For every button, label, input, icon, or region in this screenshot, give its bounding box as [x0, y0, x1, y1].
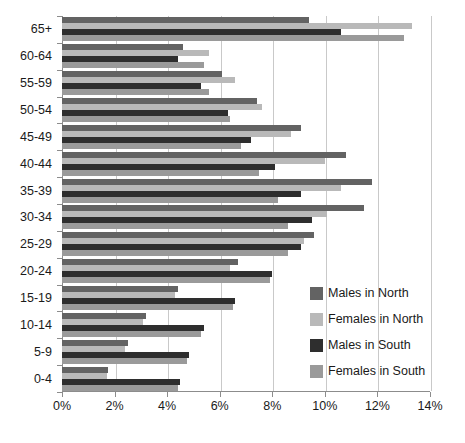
y-axis: 65+60-6455-5950-5445-4940-4435-3930-3425…: [0, 16, 57, 392]
y-tick: [57, 123, 62, 124]
x-tick-label: 6%: [198, 400, 242, 413]
y-tick: [57, 177, 62, 178]
y-tick-label: 60-64: [20, 50, 52, 63]
bar-females-in-south-40-44: [62, 170, 259, 176]
x-tick: [430, 392, 431, 397]
y-tick: [57, 43, 62, 44]
y-tick: [57, 311, 62, 312]
y-tick: [57, 231, 62, 232]
bar-females-in-south-5-9: [62, 358, 187, 364]
legend-label: Males in North: [328, 287, 409, 300]
y-tick-label: 20-24: [20, 265, 52, 278]
y-tick-label: 40-44: [20, 158, 52, 171]
bar-females-in-south-15-19: [62, 304, 233, 310]
y-tick: [57, 285, 62, 286]
x-tick-label: 8%: [250, 400, 294, 413]
bar-females-in-south-65plus: [62, 35, 404, 41]
y-tick: [57, 97, 62, 98]
y-tick: [57, 204, 62, 205]
legend-swatch-icon: [310, 339, 323, 352]
bar-females-in-south-25-29: [62, 250, 288, 256]
bar-females-in-south-10-14: [62, 331, 201, 337]
y-tick-label: 10-14: [20, 319, 52, 332]
y-tick-label: 30-34: [20, 211, 52, 224]
y-tick: [57, 70, 62, 71]
bar-females-in-south-0-4: [62, 385, 178, 391]
y-tick: [57, 392, 62, 393]
y-tick-label: 15-19: [20, 292, 52, 305]
y-tick-label: 25-29: [20, 238, 52, 251]
y-tick-label: 50-54: [20, 104, 52, 117]
y-tick: [57, 258, 62, 259]
y-tick-label: 35-39: [20, 185, 52, 198]
y-tick-label: 65+: [31, 23, 52, 36]
y-tick: [57, 338, 62, 339]
legend-item: Males in North: [310, 280, 460, 306]
bar-females-in-south-35-39: [62, 197, 278, 203]
x-tick-label: 2%: [93, 400, 137, 413]
y-tick: [57, 16, 62, 17]
bar-chart: 65+60-6455-5950-5445-4940-4435-3930-3425…: [0, 0, 465, 443]
x-tick-label: 10%: [303, 400, 347, 413]
y-tick-label: 5-9: [34, 346, 52, 359]
y-tick: [57, 365, 62, 366]
x-tick-label: 4%: [145, 400, 189, 413]
x-tick: [62, 392, 63, 397]
legend-label: Females in North: [328, 313, 423, 326]
bar-females-in-south-20-24: [62, 277, 270, 283]
bar-females-in-south-45-49: [62, 143, 241, 149]
legend-swatch-icon: [310, 287, 323, 300]
x-tick-label: 0%: [40, 400, 84, 413]
legend-item: Females in North: [310, 306, 460, 332]
bar-females-in-south-30-34: [62, 223, 288, 229]
legend-item: Females in South: [310, 358, 460, 384]
bar-females-in-south-50-54: [62, 116, 230, 122]
x-tick: [115, 392, 116, 397]
bar-females-in-south-55-59: [62, 89, 209, 95]
x-tick: [325, 392, 326, 397]
y-tick-label: 0-4: [34, 373, 52, 386]
legend-label: Males in South: [328, 339, 411, 352]
y-tick-label: 45-49: [20, 131, 52, 144]
x-tick: [377, 392, 378, 397]
chart-legend: Males in NorthFemales in NorthMales in S…: [310, 280, 460, 384]
x-tick: [167, 392, 168, 397]
legend-swatch-icon: [310, 365, 323, 378]
legend-swatch-icon: [310, 313, 323, 326]
bar-females-in-south-60-64: [62, 62, 204, 68]
x-tick: [220, 392, 221, 397]
gridline: [273, 16, 274, 391]
x-tick-label: 14%: [408, 400, 452, 413]
legend-item: Males in South: [310, 332, 460, 358]
legend-label: Females in South: [328, 365, 425, 378]
y-tick: [57, 150, 62, 151]
x-tick-label: 12%: [355, 400, 399, 413]
x-tick: [272, 392, 273, 397]
y-tick-label: 55-59: [20, 77, 52, 90]
